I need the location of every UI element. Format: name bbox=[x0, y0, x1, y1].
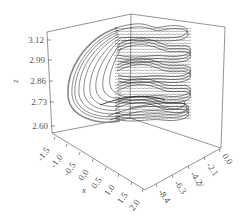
z-tick-label: 2.99 bbox=[29, 55, 45, 65]
x-axis-label: x bbox=[81, 185, 86, 195]
x-tick-label: -1.5 bbox=[35, 145, 52, 163]
attractor-left-lobe bbox=[68, 28, 121, 122]
x-tick-label: 1.5 bbox=[115, 190, 130, 205]
attractor-plot: 3.12 2.99 2.86 2.73 2.60 z -1.5 -1.0 -0.… bbox=[0, 0, 242, 215]
z-tick-label: 2.60 bbox=[32, 121, 48, 131]
y-tick-label: -8.4 bbox=[156, 187, 173, 205]
y-tick-label: -2.1 bbox=[204, 160, 220, 177]
x-tick-label: 1.0 bbox=[102, 182, 117, 197]
z-tick-label: 2.86 bbox=[30, 76, 46, 86]
x-tick-label: 2.0 bbox=[127, 197, 142, 212]
y-tick-label: -6.3 bbox=[172, 178, 189, 196]
plot-canvas: 3.12 2.99 2.86 2.73 2.60 z -1.5 -1.0 -0.… bbox=[0, 0, 242, 215]
z-tick-label: 2.73 bbox=[31, 97, 47, 107]
x-axis: -1.5 -1.0 -0.5 0.0 0.5 1.0 1.5 2.0 x bbox=[35, 137, 143, 212]
x-tick-label: -1.0 bbox=[48, 152, 65, 170]
z-tick-label: 3.12 bbox=[28, 35, 44, 45]
y-tick-label: 0.0 bbox=[220, 151, 235, 166]
x-tick-label: 0.0 bbox=[76, 167, 91, 182]
x-tick-label: 0.5 bbox=[89, 175, 104, 190]
x-tick-label: -0.5 bbox=[61, 160, 78, 178]
z-axis-label: z bbox=[10, 79, 20, 84]
